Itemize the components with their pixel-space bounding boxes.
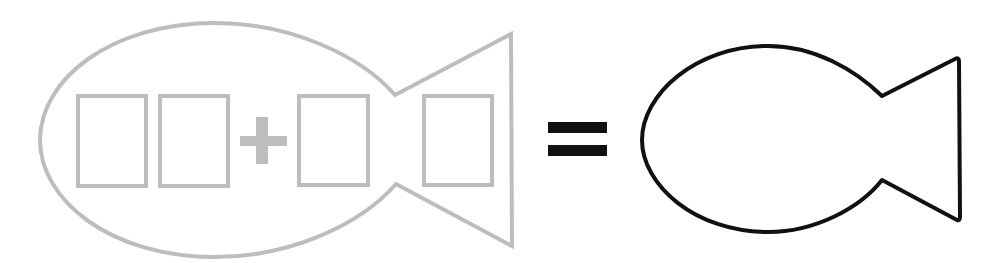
ones-digit-box[interactable] — [160, 96, 228, 186]
answer-fish[interactable] — [642, 46, 960, 232]
fish-equation-diagram — [0, 0, 988, 263]
problem-fish — [40, 23, 512, 257]
tens-digit-box[interactable] — [78, 96, 146, 186]
plus-icon — [240, 117, 287, 164]
tail-box[interactable] — [424, 96, 492, 185]
addend-box[interactable] — [299, 96, 368, 185]
equals-icon — [548, 122, 607, 156]
